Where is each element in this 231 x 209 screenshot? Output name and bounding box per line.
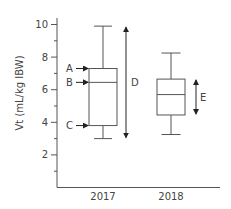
x-tick-label: 2017 <box>90 191 115 202</box>
y-tick-label: 2 <box>42 149 48 160</box>
y-tick-label: 4 <box>42 117 48 128</box>
boxes: 20172018 <box>89 26 185 202</box>
iqr-box <box>89 69 117 126</box>
y-axis-label: Vt (mL/kg IBW) <box>14 55 25 130</box>
box-plot-chart: 246810 20172018 ABCDE Vt (mL/kg IBW) <box>0 0 231 209</box>
box-2017: 2017 <box>89 26 117 202</box>
y-tick-label: 10 <box>35 19 48 30</box>
axes: 246810 <box>35 18 220 188</box>
annotation-b: B <box>66 77 73 88</box>
y-tick-label: 8 <box>42 52 48 63</box>
annotation-e: E <box>200 92 206 103</box>
annotation-c: C <box>66 120 73 131</box>
annotation-d: D <box>131 77 139 88</box>
box-2018: 2018 <box>157 53 185 202</box>
iqr-box <box>157 79 185 115</box>
annotation-a: A <box>66 63 73 74</box>
x-tick-label: 2018 <box>158 191 183 202</box>
y-tick-label: 6 <box>42 84 48 95</box>
